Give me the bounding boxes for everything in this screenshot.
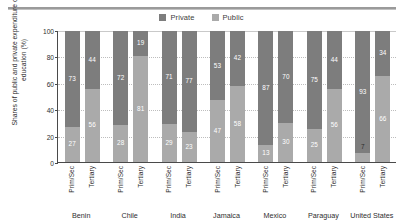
legend-item-private[interactable]: Private — [159, 14, 194, 22]
stacked-bar[interactable]: 7129 — [162, 31, 177, 162]
y-axis-title: Shares of public and private expenditure… — [10, 0, 28, 130]
x-sub-label-text: Prim/Sec — [358, 166, 365, 193]
bar-group: 9373466 — [355, 31, 390, 162]
x-sub-label-text: Tertiary — [281, 166, 288, 188]
bar-segment-private[interactable]: 42 — [230, 31, 245, 86]
x-sub-label: Prim/Sec — [161, 166, 176, 210]
x-sub-label: Tertiary — [181, 166, 196, 210]
bar-segment-private[interactable]: 44 — [85, 31, 100, 89]
bar-value-label: 87 — [262, 85, 269, 91]
bar-segment-private[interactable]: 75 — [307, 31, 322, 129]
bar-value-label: 44 — [89, 57, 96, 63]
bar-segment-public[interactable]: 29 — [162, 124, 177, 162]
bar-value-label: 58 — [234, 121, 241, 127]
bar-segment-public[interactable]: 66 — [375, 76, 390, 162]
bar-segment-private[interactable]: 72 — [113, 31, 128, 125]
bar-segment-private[interactable]: 93 — [355, 31, 370, 153]
stacked-bar[interactable]: 7723 — [182, 31, 197, 162]
bar-value-label: 73 — [69, 76, 76, 82]
x-sub-label: Prim/Sec — [112, 166, 127, 210]
bar-segment-private[interactable]: 87 — [258, 31, 273, 145]
bar-value-label: 56 — [331, 122, 338, 128]
header-divider — [8, 7, 396, 10]
stacked-bar[interactable]: 8713 — [258, 31, 273, 162]
bar-segment-public[interactable]: 81 — [133, 56, 148, 162]
x-category-label: Jamaica — [213, 211, 240, 220]
bar-segment-private[interactable]: 34 — [375, 31, 390, 76]
x-sub-label-text: Prim/Sec — [116, 166, 123, 193]
x-sub-label-text: Prim/Sec — [261, 166, 268, 193]
bar-value-label: 25 — [311, 142, 318, 148]
legend-item-public[interactable]: Public — [212, 14, 244, 22]
x-sub-label: Tertiary — [374, 166, 389, 210]
stacked-bar[interactable]: 3466 — [375, 31, 390, 162]
bar-segment-public[interactable]: 56 — [85, 89, 100, 162]
bar-segment-private[interactable]: 19 — [133, 31, 148, 56]
bar-value-label: 7 — [361, 144, 365, 150]
bar-value-label: 47 — [214, 128, 221, 134]
x-sub-label-text: Tertiary — [185, 166, 192, 188]
bar-segment-public[interactable]: 23 — [182, 132, 197, 162]
x-sub-label: Prim/Sec — [354, 166, 369, 210]
bar-segment-public[interactable]: 47 — [210, 100, 225, 162]
legend-swatch-icon — [159, 14, 166, 21]
bar-segment-private[interactable]: 53 — [210, 31, 225, 100]
bar-series: 7327445672281981712977235347425887137030… — [58, 31, 396, 162]
stacked-bar[interactable]: 937 — [355, 31, 370, 162]
bar-value-label: 19 — [137, 40, 144, 46]
stacked-bar[interactable]: 1981 — [133, 31, 148, 162]
bar-segment-public[interactable]: 7 — [355, 153, 370, 162]
y-tick-label: 100 — [43, 28, 54, 35]
bar-value-label: 28 — [117, 140, 124, 146]
stacked-bar[interactable]: 7525 — [307, 31, 322, 162]
x-sub-label-text: Tertiary — [233, 166, 240, 188]
stacked-bar[interactable]: 5347 — [210, 31, 225, 162]
bar-segment-private[interactable]: 70 — [278, 31, 293, 123]
stacked-bar[interactable]: 4456 — [85, 31, 100, 162]
bar-segment-public[interactable]: 27 — [65, 127, 80, 162]
stacked-bar[interactable]: 7228 — [113, 31, 128, 162]
bar-value-label: 75 — [311, 77, 318, 83]
bar-segment-public[interactable]: 28 — [113, 125, 128, 162]
bar-segment-public[interactable]: 58 — [230, 86, 245, 162]
x-category-label: Benin — [72, 211, 90, 220]
bar-value-label: 29 — [165, 140, 172, 146]
y-tick-label: 20 — [47, 133, 54, 140]
bar-value-label: 81 — [137, 106, 144, 112]
bar-group: 53474258 — [210, 31, 245, 162]
y-tick-label: 40 — [47, 107, 54, 114]
x-sub-label: Tertiary — [84, 166, 99, 210]
y-tick-label: 0 — [50, 160, 54, 167]
bar-value-label: 30 — [282, 139, 289, 145]
stacked-bar[interactable]: 7030 — [278, 31, 293, 162]
stacked-bar[interactable]: 4258 — [230, 31, 245, 162]
y-tick-label: 80 — [47, 54, 54, 61]
bar-segment-private[interactable]: 44 — [327, 31, 342, 89]
bar-segment-public[interactable]: 56 — [327, 89, 342, 162]
bar-value-label: 71 — [165, 74, 172, 80]
x-sub-label: Prim/Sec — [257, 166, 272, 210]
bar-segment-private[interactable]: 71 — [162, 31, 177, 124]
legend-swatch-icon — [212, 14, 219, 21]
bar-value-label: 56 — [89, 122, 96, 128]
x-sub-label: Tertiary — [229, 166, 244, 210]
legend-label: Public — [223, 14, 244, 22]
x-sub-label: Tertiary — [326, 166, 341, 210]
x-category-label: India — [170, 211, 186, 220]
bar-value-label: 93 — [359, 89, 366, 95]
bar-value-label: 23 — [185, 144, 192, 150]
chart-legend: PrivatePublic — [0, 14, 403, 22]
legend-label: Private — [170, 14, 194, 22]
bar-value-label: 70 — [282, 74, 289, 80]
bar-segment-public[interactable]: 25 — [307, 129, 322, 162]
x-sub-label-text: Prim/Sec — [310, 166, 317, 193]
bar-segment-private[interactable]: 73 — [65, 31, 80, 127]
stacked-bar[interactable]: 7327 — [65, 31, 80, 162]
x-sub-label-text: Tertiary — [88, 166, 95, 188]
stacked-bar[interactable]: 4456 — [327, 31, 342, 162]
bar-group: 87137030 — [258, 31, 293, 162]
chart-figure: PrivatePublic Shares of public and priva… — [0, 0, 403, 224]
bar-segment-private[interactable]: 77 — [182, 31, 197, 132]
bar-segment-public[interactable]: 13 — [258, 145, 273, 162]
bar-segment-public[interactable]: 30 — [278, 123, 293, 162]
